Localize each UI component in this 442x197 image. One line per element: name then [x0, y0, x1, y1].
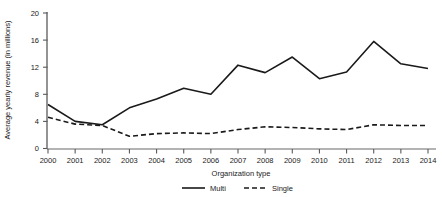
x-tick-label: 2010	[311, 156, 328, 165]
legend-label-single: Single	[272, 184, 293, 193]
chart-canvas: 048121620 200020012002200320042005200620…	[0, 0, 442, 197]
series-line-single	[48, 117, 428, 136]
y-tick-label: 4	[35, 117, 39, 126]
x-axis-title: Organization type	[212, 169, 271, 178]
x-tick-label: 2002	[94, 156, 111, 165]
x-tick-label: 2007	[230, 156, 247, 165]
series-line-multi	[48, 41, 428, 124]
x-tick-label: 2009	[284, 156, 301, 165]
chart-legend: Multi Single	[182, 184, 293, 193]
y-tick-label: 0	[35, 144, 39, 153]
x-tick-label: 2004	[148, 156, 165, 165]
legend-label-multi: Multi	[210, 184, 226, 193]
x-tick-label: 2000	[40, 156, 57, 165]
y-tick-label: 8	[35, 90, 39, 99]
x-axis-tick-labels: 2000200120022003200420052006200720082009…	[40, 156, 437, 165]
x-tick-label: 2006	[203, 156, 220, 165]
y-tick-label: 16	[31, 36, 39, 45]
chart-series-group	[48, 41, 428, 136]
line-chart: 048121620 200020012002200320042005200620…	[0, 0, 442, 197]
x-tick-label: 2013	[393, 156, 410, 165]
y-tick-label: 12	[31, 63, 39, 72]
x-tick-label: 2001	[67, 156, 84, 165]
x-tick-label: 2008	[257, 156, 274, 165]
x-tick-label: 2005	[175, 156, 192, 165]
y-axis-tick-labels: 048121620	[31, 9, 39, 154]
x-axis-ticks	[48, 149, 428, 154]
x-tick-label: 2003	[121, 156, 138, 165]
x-tick-label: 2011	[339, 156, 355, 165]
x-tick-label: 2012	[365, 156, 382, 165]
y-axis-title: Average yearly revenue (in millions)	[3, 20, 12, 140]
x-tick-label: 2014	[420, 156, 437, 165]
y-tick-label: 20	[31, 9, 39, 18]
